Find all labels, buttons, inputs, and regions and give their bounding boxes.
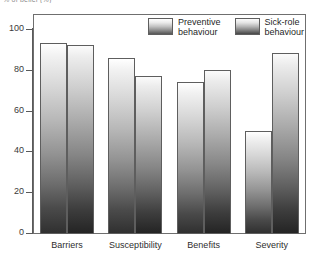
bar-chart-figure: % of belief (%) 020406080100 BarriersSus… <box>0 0 314 269</box>
bar-benefits-sick-role <box>204 70 231 234</box>
x-tick-label-susceptibility: Susceptibility <box>101 240 169 250</box>
y-tick-label-40: 40 <box>0 145 24 155</box>
y-tick-80 <box>26 70 32 71</box>
y-tick-40 <box>26 151 32 152</box>
bar-severity-preventive <box>245 131 272 234</box>
legend-label-preventive-line2: behaviour <box>178 27 221 37</box>
legend-label-sick-role-line2: behaviour <box>265 27 305 37</box>
y-tick-label-100: 100 <box>0 23 24 33</box>
x-tick-label-benefits: Benefits <box>170 240 238 250</box>
y-tick-label-80: 80 <box>0 64 24 74</box>
y-tick-0 <box>26 233 32 234</box>
legend-swatch-preventive <box>148 18 173 35</box>
legend-label-sick-role: Sick-role behaviour <box>265 17 305 37</box>
bar-susceptibility-sick-role <box>135 76 162 234</box>
legend-label-preventive: Preventive behaviour <box>178 17 221 37</box>
y-tick-100 <box>26 29 32 30</box>
bar-benefits-preventive <box>177 82 204 234</box>
legend: Preventive behaviour Sick-role behaviour <box>148 17 304 37</box>
y-tick-label-60: 60 <box>0 105 24 115</box>
y-tick-label-20: 20 <box>0 186 24 196</box>
top-caption: % of belief (%) <box>3 0 52 3</box>
legend-swatch-sick-role <box>235 18 260 35</box>
bar-severity-sick-role <box>272 53 299 234</box>
y-tick-20 <box>26 192 32 193</box>
x-tick-label-severity: Severity <box>238 240 306 250</box>
bar-susceptibility-preventive <box>108 58 135 234</box>
legend-label-preventive-line1: Preventive <box>178 17 221 27</box>
bar-barriers-preventive <box>40 43 67 234</box>
plot-area <box>33 14 306 234</box>
bar-barriers-sick-role <box>67 45 94 234</box>
y-tick-60 <box>26 111 32 112</box>
x-tick-label-barriers: Barriers <box>33 240 101 250</box>
legend-item-preventive: Preventive behaviour <box>148 17 221 37</box>
legend-item-sick-role: Sick-role behaviour <box>235 17 305 37</box>
y-tick-label-0: 0 <box>0 227 24 237</box>
legend-label-sick-role-line1: Sick-role <box>265 17 300 27</box>
